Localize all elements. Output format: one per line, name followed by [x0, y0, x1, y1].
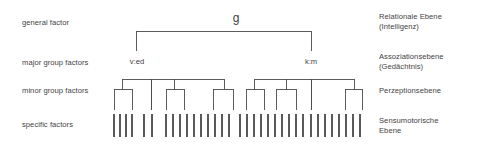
- node-label-ved: v:ed: [130, 57, 144, 66]
- hierarchical-factor-diagram: general factor major group factors minor…: [0, 0, 486, 148]
- level-label-minor-group-factors: minor group factors: [22, 86, 88, 96]
- level-label-specific-factors: specific factors: [22, 120, 73, 130]
- level-label-relationale-ebene: Relationale Ebene (Intelligenz): [379, 12, 442, 31]
- level-label-sensumotorische-ebene: Sensumotorische Ebene: [379, 116, 438, 135]
- level-label-perzeptionsebene: Perzeptionsebene: [379, 86, 441, 96]
- node-label-km: k:m: [305, 57, 317, 66]
- level-label-major-group-factors: major group factors: [22, 58, 88, 68]
- node-label-g: g: [233, 12, 240, 25]
- level-label-general-factor: general factor: [22, 18, 69, 28]
- level-label-assoziationsebene: Assoziationsebene (Gedächtnis): [379, 52, 444, 71]
